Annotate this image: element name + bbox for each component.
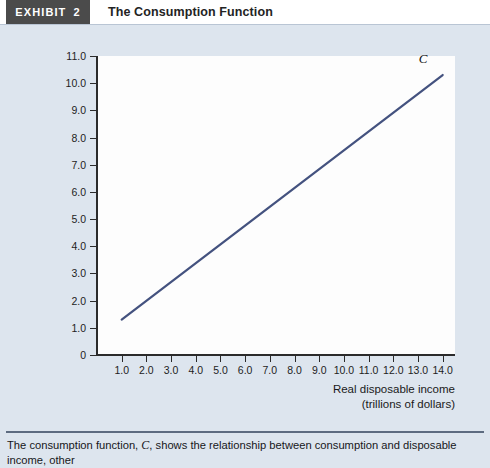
exhibit-tag-number: 2 [73,6,80,18]
x-tick-label: 9.0 [312,364,327,376]
y-tick-mark [90,355,96,356]
x-tick-mark [295,356,296,362]
y-tick-label: 5.0 [71,213,86,225]
x-tick-label: 1.0 [114,364,129,376]
x-tick-label: 10.0 [334,364,354,376]
caption-divider [6,431,484,433]
y-tick-label: 8.0 [71,132,86,144]
y-tick-mark [90,56,96,57]
x-tick-mark [319,356,320,362]
y-tick-mark [90,83,96,84]
y-tick-mark [90,192,96,193]
x-tick-mark [171,356,172,362]
y-tick-mark [90,219,96,220]
y-tick-mark [90,165,96,166]
y-tick-mark [90,328,96,329]
x-tick-mark [270,356,271,362]
y-tick-label: 6.0 [71,186,86,198]
x-tick-mark [344,356,345,362]
y-tick-label: 4.0 [71,240,86,252]
x-tick-label: 14.0 [432,364,452,376]
x-tick-label: 11.0 [359,364,379,376]
y-tick-label: 0 [80,349,86,361]
x-tick-label: 7.0 [263,364,278,376]
x-tick-mark [220,356,221,362]
x-axis-title-line1: Real disposable income [333,382,455,397]
x-tick-label: 8.0 [287,364,302,376]
y-tick-label: 10.0 [66,77,86,89]
y-tick-label: 7.0 [71,159,86,171]
x-tick-mark [196,356,197,362]
y-tick-mark [90,138,96,139]
x-tick-label: 12.0 [383,364,403,376]
x-tick-label: 3.0 [164,364,179,376]
y-tick-mark [90,301,96,302]
y-tick-label: 2.0 [71,295,86,307]
curve-label-c: C [419,51,428,67]
y-tick-mark [90,110,96,111]
x-tick-label: 4.0 [188,364,203,376]
x-tick-mark [369,356,370,362]
x-tick-label: 6.0 [238,364,253,376]
y-tick-label: 9.0 [71,104,86,116]
y-tick-mark [90,246,96,247]
caption-text-before: The consumption function, [7,439,141,451]
x-tick-mark [418,356,419,362]
page-title: The Consumption Function [108,0,273,24]
x-tick-label: 13.0 [408,364,428,376]
exhibit-tag: EXHIBIT 2 [6,0,90,24]
x-tick-label: 2.0 [139,364,154,376]
exhibit-header: EXHIBIT 2 The Consumption Function [0,0,490,24]
y-tick-mark [90,273,96,274]
y-tick-label: 1.0 [71,322,86,334]
x-axis-title: Real disposable income (trillions of dol… [333,382,455,412]
x-tick-mark [393,356,394,362]
x-tick-label: 5.0 [213,364,228,376]
y-axis-line [96,56,98,356]
y-tick-label: 3.0 [71,267,86,279]
x-axis-line [96,354,455,356]
x-tick-mark [146,356,147,362]
chart-figure: 01.02.03.04.05.06.07.08.09.010.011.0 1.0… [0,25,490,425]
figure-caption: The consumption function, C, shows the r… [7,438,485,468]
y-tick-label: 11.0 [66,50,86,62]
exhibit-tag-label: EXHIBIT [15,6,66,18]
plot-area [97,56,455,355]
x-tick-mark [245,356,246,362]
x-axis-title-line2: (trillions of dollars) [333,397,455,412]
x-tick-mark [122,356,123,362]
x-tick-mark [443,356,444,362]
